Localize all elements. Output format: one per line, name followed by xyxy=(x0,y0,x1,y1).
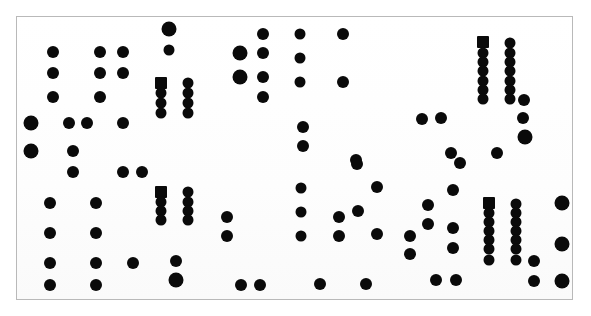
scatter-point xyxy=(44,257,56,269)
scatter-point xyxy=(164,45,175,56)
scatter-point xyxy=(162,22,177,37)
scatter-point xyxy=(297,140,309,152)
scatter-point xyxy=(351,158,363,170)
scatter-point xyxy=(169,273,184,288)
scatter-point xyxy=(555,237,570,252)
scatter-point xyxy=(511,255,522,266)
scatter-point xyxy=(90,227,102,239)
scatter-point xyxy=(233,70,248,85)
scatter-point xyxy=(478,94,489,105)
scatter-point xyxy=(117,46,129,58)
scatter-point xyxy=(555,196,570,211)
scatter-point xyxy=(295,53,306,64)
scatter-point xyxy=(235,279,247,291)
scatter-point xyxy=(156,108,167,119)
scatter-point xyxy=(447,222,459,234)
scatter-point xyxy=(435,112,447,124)
scatter-point xyxy=(447,242,459,254)
scatter-point xyxy=(47,67,59,79)
scatter-point xyxy=(445,147,457,159)
scatter-point xyxy=(484,244,495,255)
scatter-point xyxy=(257,91,269,103)
scatter-point xyxy=(183,108,194,119)
scatter-point xyxy=(296,183,307,194)
scatter-point xyxy=(94,67,106,79)
scatter-point xyxy=(67,145,79,157)
scatter-point xyxy=(296,207,307,218)
scatter-point xyxy=(183,215,194,226)
scatter-point xyxy=(447,184,459,196)
figure-canvas xyxy=(0,0,591,316)
scatter-point xyxy=(117,67,129,79)
scatter-point xyxy=(44,227,56,239)
scatter-point xyxy=(254,279,266,291)
scatter-point xyxy=(257,47,269,59)
scatter-point xyxy=(454,157,466,169)
scatter-point xyxy=(491,147,503,159)
scatter-point xyxy=(333,211,345,223)
scatter-point xyxy=(505,94,516,105)
scatter-point xyxy=(404,248,416,260)
scatter-point xyxy=(352,205,364,217)
scatter-point xyxy=(422,218,434,230)
scatter-point xyxy=(555,274,570,289)
scatter-point xyxy=(63,117,75,129)
scatter-point xyxy=(117,117,129,129)
scatter-point xyxy=(518,94,530,106)
scatter-point xyxy=(117,166,129,178)
scatter-point xyxy=(90,279,102,291)
scatter-point xyxy=(517,112,529,124)
scatter-point xyxy=(296,231,307,242)
scatter-point xyxy=(314,278,326,290)
scatter-point xyxy=(297,121,309,133)
scatter-point xyxy=(90,197,102,209)
scatter-point xyxy=(416,113,428,125)
scatter-point xyxy=(221,211,233,223)
scatter-point xyxy=(94,91,106,103)
scatter-point xyxy=(518,130,533,145)
scatter-point xyxy=(221,230,233,242)
scatter-point xyxy=(528,275,540,287)
scatter-point xyxy=(295,77,306,88)
scatter-point xyxy=(360,278,372,290)
scatter-point xyxy=(67,166,79,178)
scatter-point xyxy=(24,144,39,159)
scatter-point xyxy=(127,257,139,269)
scatter-point xyxy=(94,46,106,58)
scatter-point xyxy=(295,29,306,40)
scatter-marks-layer xyxy=(0,0,591,316)
scatter-point xyxy=(404,230,416,242)
scatter-point xyxy=(337,76,349,88)
scatter-point xyxy=(528,255,540,267)
scatter-point xyxy=(484,255,495,266)
scatter-point xyxy=(81,117,93,129)
scatter-point xyxy=(371,228,383,240)
scatter-point xyxy=(170,255,182,267)
scatter-point xyxy=(371,181,383,193)
scatter-point xyxy=(430,274,442,286)
scatter-point xyxy=(477,36,489,48)
scatter-point xyxy=(90,257,102,269)
scatter-point xyxy=(44,279,56,291)
scatter-point xyxy=(47,46,59,58)
scatter-point xyxy=(257,71,269,83)
scatter-point xyxy=(47,91,59,103)
scatter-point xyxy=(450,274,462,286)
scatter-point xyxy=(257,28,269,40)
scatter-point xyxy=(156,215,167,226)
scatter-point xyxy=(333,230,345,242)
scatter-point xyxy=(511,244,522,255)
scatter-point xyxy=(233,46,248,61)
scatter-point xyxy=(422,199,434,211)
scatter-point xyxy=(24,116,39,131)
scatter-point xyxy=(44,197,56,209)
scatter-point xyxy=(337,28,349,40)
scatter-point xyxy=(136,166,148,178)
